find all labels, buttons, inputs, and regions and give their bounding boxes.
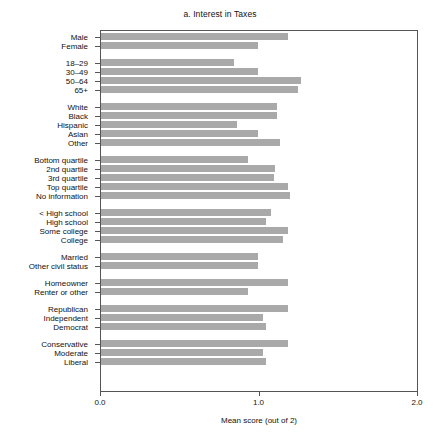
category-label: Male xyxy=(0,34,88,42)
category-labels: MaleFemale18–2930–4950–6465+WhiteBlackHi… xyxy=(0,31,96,391)
category-label: Democrat xyxy=(0,324,88,332)
y-tick xyxy=(95,318,100,319)
x-tick xyxy=(259,392,260,396)
bar xyxy=(101,183,288,190)
category-label: Homeowner xyxy=(0,280,88,288)
y-tick xyxy=(95,72,100,73)
y-tick xyxy=(95,178,100,179)
y-tick xyxy=(95,213,100,214)
category-label: Moderate xyxy=(0,350,88,358)
y-tick xyxy=(95,107,100,108)
bar xyxy=(101,103,277,110)
category-label: 3rd quartile xyxy=(0,175,88,183)
bar xyxy=(101,112,277,119)
bar xyxy=(101,218,266,225)
y-tick xyxy=(95,125,100,126)
x-tick-label: 1.0 xyxy=(253,398,264,407)
y-tick xyxy=(95,231,100,232)
bar xyxy=(101,174,274,181)
category-label: Bottom quartile xyxy=(0,157,88,165)
category-label: Married xyxy=(0,254,88,262)
bar xyxy=(101,358,266,365)
y-tick xyxy=(95,116,100,117)
category-label: Some college xyxy=(0,228,88,236)
bar xyxy=(101,59,234,66)
category-label: White xyxy=(0,104,88,112)
bar xyxy=(101,139,280,146)
x-tick xyxy=(100,392,101,396)
bar xyxy=(101,165,275,172)
bar xyxy=(101,121,237,128)
bar xyxy=(101,42,258,49)
y-tick xyxy=(95,257,100,258)
category-label: Hispanic xyxy=(0,122,88,130)
bar-chart: a. Interest in Taxes MaleFemale18–2930–4… xyxy=(0,0,440,447)
y-tick xyxy=(95,196,100,197)
y-tick xyxy=(95,37,100,38)
category-label: Other civil status xyxy=(0,263,88,271)
category-label: No information xyxy=(0,193,88,201)
x-tick xyxy=(417,392,418,396)
y-tick xyxy=(95,283,100,284)
bar xyxy=(101,33,288,40)
bar xyxy=(101,77,301,84)
category-label: Top quartile xyxy=(0,184,88,192)
category-label: Female xyxy=(0,43,88,51)
y-tick xyxy=(95,344,100,345)
bar xyxy=(101,253,258,260)
y-tick xyxy=(95,353,100,354)
bar xyxy=(101,130,258,137)
bar xyxy=(101,156,248,163)
category-label: Republican xyxy=(0,306,88,314)
y-tick xyxy=(95,362,100,363)
category-label: 65+ xyxy=(0,87,88,95)
bar xyxy=(101,68,258,75)
bar xyxy=(101,340,288,347)
bar xyxy=(101,305,288,312)
y-tick xyxy=(95,160,100,161)
y-tick xyxy=(95,266,100,267)
category-label: 18–29 xyxy=(0,60,88,68)
y-tick xyxy=(95,292,100,293)
category-label: Conservative xyxy=(0,341,88,349)
bar xyxy=(101,192,290,199)
category-label: 2nd quartile xyxy=(0,166,88,174)
category-label: < High school xyxy=(0,210,88,218)
category-label: High school xyxy=(0,219,88,227)
y-tick xyxy=(95,240,100,241)
bar xyxy=(101,288,248,295)
bar xyxy=(101,323,266,330)
category-label: 30–49 xyxy=(0,69,88,77)
bar xyxy=(101,86,298,93)
category-label: Renter or other xyxy=(0,289,88,297)
y-tick xyxy=(95,327,100,328)
y-tick xyxy=(95,81,100,82)
x-tick-label: 2.0 xyxy=(411,398,422,407)
bar xyxy=(101,209,271,216)
x-axis-title: Mean score (out of 2) xyxy=(100,416,418,425)
y-tick xyxy=(95,134,100,135)
category-label: Asian xyxy=(0,131,88,139)
bar xyxy=(101,236,283,243)
y-tick xyxy=(95,90,100,91)
category-label: Independent xyxy=(0,315,88,323)
y-tick xyxy=(95,187,100,188)
y-tick xyxy=(95,222,100,223)
y-tick xyxy=(95,63,100,64)
bar xyxy=(101,349,263,356)
y-tick xyxy=(95,309,100,310)
category-label: 50–64 xyxy=(0,78,88,86)
bars-layer xyxy=(101,31,418,391)
category-label: Black xyxy=(0,113,88,121)
bar xyxy=(101,262,258,269)
bar xyxy=(101,279,288,286)
y-tick xyxy=(95,143,100,144)
y-tick xyxy=(95,169,100,170)
category-label: Liberal xyxy=(0,359,88,367)
bar xyxy=(101,314,263,321)
category-label: Other xyxy=(0,140,88,148)
bar xyxy=(101,227,288,234)
chart-title: a. Interest in Taxes xyxy=(0,9,440,19)
y-tick xyxy=(95,46,100,47)
x-tick-label: 0.0 xyxy=(94,398,105,407)
